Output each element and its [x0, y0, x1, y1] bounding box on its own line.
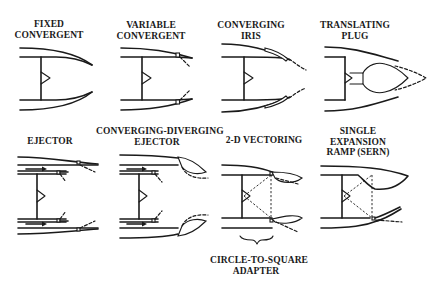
diagram-2d-vectoring [222, 165, 302, 244]
diagram-fixed-convergent [20, 48, 92, 110]
nozzle-concepts-diagram: FIXED CONVERGENT VARIABLE CONVERGENT CON… [0, 0, 442, 283]
diagram-translating-plug [325, 47, 426, 111]
diagram-variable-convergent [121, 48, 192, 110]
diagram-converging-iris [222, 44, 306, 112]
diagram-ejector [18, 157, 98, 234]
diagram-serne [321, 166, 408, 228]
diagram-converging-diverging-ejector [120, 155, 208, 238]
